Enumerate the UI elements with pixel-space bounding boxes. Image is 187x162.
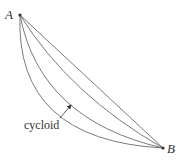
point-a-label: A [4,7,13,22]
cycloid-label: cycloid [24,118,59,132]
cycloid-arrow-icon [60,105,71,118]
point-b-label: B [167,141,175,156]
point-a-dot [18,13,21,16]
brachistochrone-diagram: A B cycloid [0,0,187,162]
point-b-dot [161,146,164,149]
